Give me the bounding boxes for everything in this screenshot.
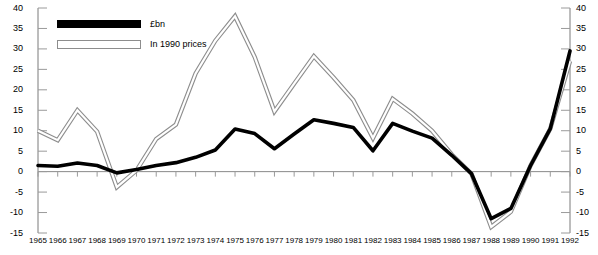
- x-tick-label-1969: 1969: [108, 236, 126, 246]
- legend-swatch-hollow-icon: [57, 40, 141, 49]
- x-tick-label-1980: 1980: [325, 236, 343, 246]
- x-tick-label-1977: 1977: [266, 236, 284, 246]
- x-tick-label-1978: 1978: [285, 236, 303, 246]
- x-tick-label-1984: 1984: [403, 236, 421, 246]
- x-tick-label-1968: 1968: [88, 236, 106, 246]
- x-tick-label-1970: 1970: [128, 236, 146, 246]
- chart-legend: £bn In 1990 prices: [57, 14, 207, 54]
- x-tick-label-1982: 1982: [364, 236, 382, 246]
- x-tick-label-1983: 1983: [384, 236, 402, 246]
- x-tick-label-1965: 1965: [29, 236, 47, 246]
- x-tick-label-1975: 1975: [226, 236, 244, 246]
- x-tick-label-1981: 1981: [344, 236, 362, 246]
- x-tick-label-1966: 1966: [49, 236, 67, 246]
- x-tick-label-1976: 1976: [246, 236, 264, 246]
- line-chart: 4035302520151050-5-10-15 403530252015105…: [0, 0, 598, 255]
- legend-label-1990-prices: In 1990 prices: [150, 40, 207, 49]
- legend-swatch-solid-icon: [57, 20, 141, 28]
- x-tick-label-1972: 1972: [167, 236, 185, 246]
- series-line-gbp: [38, 51, 570, 219]
- x-tick-label-1991: 1991: [541, 236, 559, 246]
- legend-item-gbp: £bn: [57, 14, 207, 34]
- x-tick-label-1986: 1986: [443, 236, 461, 246]
- x-tick-label-1988: 1988: [482, 236, 500, 246]
- x-tick-label-1974: 1974: [206, 236, 224, 246]
- x-tick-label-1989: 1989: [502, 236, 520, 246]
- legend-item-1990-prices: In 1990 prices: [57, 34, 207, 54]
- x-tick-label-1990: 1990: [522, 236, 540, 246]
- x-tick-label-1971: 1971: [147, 236, 165, 246]
- x-tick-label-1967: 1967: [69, 236, 87, 246]
- x-tick-label-1992: 1992: [561, 236, 579, 246]
- x-tick-label-1979: 1979: [305, 236, 323, 246]
- legend-label-gbp: £bn: [150, 20, 165, 29]
- x-tick-label-1987: 1987: [463, 236, 481, 246]
- year-axis: 1965196619671968196919701971197219731974…: [0, 236, 598, 250]
- x-tick-label-1973: 1973: [187, 236, 205, 246]
- x-tick-label-1985: 1985: [423, 236, 441, 246]
